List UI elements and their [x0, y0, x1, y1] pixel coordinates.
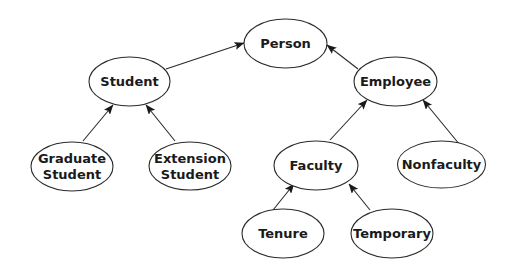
node-label: Extension [154, 151, 226, 166]
node-nonfaculty: Nonfaculty [398, 141, 486, 188]
inheritance-arrow-nonfaculty-to-employee [423, 100, 460, 145]
node-label: Temporary [353, 226, 431, 241]
node-student: Student [89, 57, 170, 106]
arrow-line [166, 43, 244, 69]
node-extension-student: ExtensionStudent [149, 142, 231, 190]
inheritance-arrow-temporary-to-faculty [349, 184, 370, 210]
node-employee: Employee [354, 57, 437, 106]
node-person: Person [244, 19, 327, 68]
node-faculty: Faculty [274, 141, 358, 190]
node-graduate-student: GraduateStudent [31, 142, 113, 191]
node-label: Student [161, 167, 219, 182]
arrow-line [83, 105, 113, 141]
node-label: Nonfaculty [402, 157, 482, 172]
inheritance-arrow-tenure-to-faculty [273, 184, 294, 210]
arrow-line [273, 184, 294, 210]
node-label: Tenure [258, 226, 308, 241]
node-label: Employee [360, 74, 431, 89]
arrow-line [423, 100, 460, 145]
inheritance-arrow-extension-student-to-student [146, 105, 175, 141]
node-tenure: Tenure [242, 209, 324, 258]
node-label: Person [260, 36, 311, 51]
arrow-line [327, 45, 358, 69]
inheritance-arrow-student-to-person [166, 43, 244, 69]
class-hierarchy-diagram: PersonStudentEmployeeGraduateStudentExte… [0, 0, 509, 279]
node-label: Graduate [38, 151, 106, 166]
inheritance-arrow-faculty-to-employee [330, 100, 367, 140]
node-label: Student [100, 74, 158, 89]
nodes-layer: PersonStudentEmployeeGraduateStudentExte… [31, 19, 486, 258]
arrow-line [330, 100, 367, 140]
arrow-line [349, 184, 370, 210]
node-label: Faculty [290, 158, 344, 173]
inheritance-arrow-employee-to-person [327, 45, 358, 69]
node-temporary: Temporary [351, 209, 433, 258]
node-label: Student [43, 167, 101, 182]
inheritance-arrow-graduate-student-to-student [83, 105, 113, 141]
arrow-line [146, 105, 175, 141]
